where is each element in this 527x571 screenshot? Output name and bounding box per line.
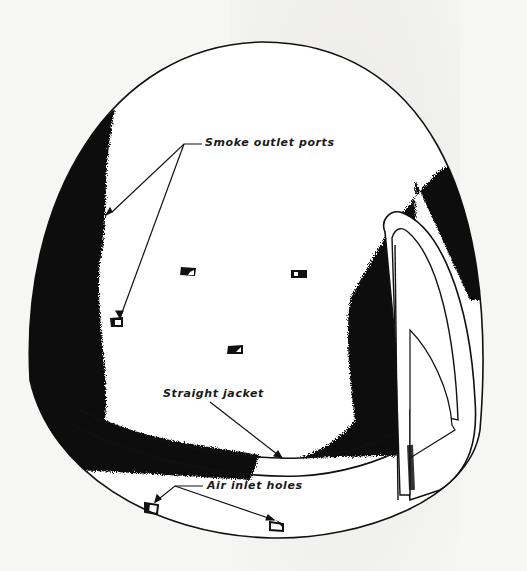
diagram-figure: Smoke outlet ports Straight jacket Air i… xyxy=(0,0,527,571)
smoke-outlet-port-1 xyxy=(180,267,196,276)
straight-jacket-label: Straight jacket xyxy=(163,387,264,400)
smoke-outlet-port-3 xyxy=(227,345,243,354)
smoke-outlet-port-4 xyxy=(110,317,123,327)
door-shadow xyxy=(410,445,412,490)
smoke-outlet-ports-label: Smoke outlet ports xyxy=(205,136,335,149)
air-inlet-holes-label: Air inlet holes xyxy=(207,479,303,492)
smoke-outlet-port-2 xyxy=(291,270,307,278)
